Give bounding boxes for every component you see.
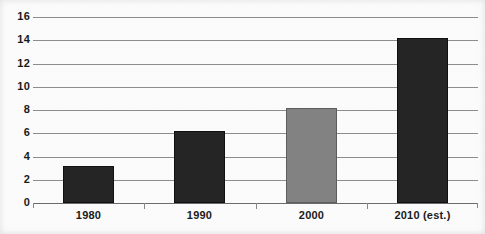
y-axis-tick-label: 2 [2, 174, 30, 185]
bar [63, 166, 114, 203]
y-axis-tick-label: 6 [2, 127, 30, 138]
gridline [33, 17, 478, 18]
plot-area [33, 17, 478, 203]
y-axis-tick-label: 12 [2, 58, 30, 69]
x-axis-tick-label: 1990 [144, 209, 255, 221]
x-axis-tick-label: 1980 [33, 209, 144, 221]
bar [286, 108, 337, 203]
y-axis-labels: 0246810121416 [0, 0, 30, 234]
y-axis-tick-label: 0 [2, 197, 30, 208]
x-axis-end-tick [477, 203, 478, 208]
y-axis-tick-label: 4 [2, 151, 30, 162]
y-axis-tick-label: 14 [2, 34, 30, 45]
y-axis-tick-label: 10 [2, 81, 30, 92]
x-axis-tick-label: 2010 (est.) [367, 209, 478, 221]
bar [174, 131, 225, 203]
x-axis-tick-label: 2000 [256, 209, 367, 221]
x-axis-start-tick [33, 203, 34, 208]
y-axis-tick-label: 8 [2, 104, 30, 115]
bar [397, 38, 448, 203]
bar-chart: 0246810121416 1980199020002010 (est.) [0, 0, 485, 234]
y-axis-tick-label: 16 [2, 11, 30, 22]
